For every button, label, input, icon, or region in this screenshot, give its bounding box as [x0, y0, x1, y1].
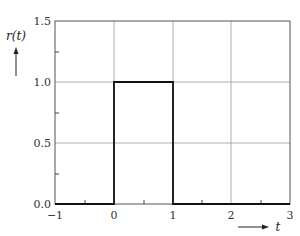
- minor-ticks: [55, 52, 261, 204]
- x-tick-0: 0: [111, 209, 118, 222]
- x-axis-arrow-icon: [238, 225, 269, 230]
- x-tick-3: 3: [287, 209, 294, 222]
- y-tick-0.5: 0.5: [34, 137, 52, 150]
- y-tick-1.5: 1.5: [34, 15, 52, 28]
- y-axis-label: r(t): [6, 29, 26, 43]
- y-axis-arrow-icon: [14, 47, 19, 76]
- x-tick-1: 1: [170, 209, 177, 222]
- x-axis-label: t: [276, 220, 281, 234]
- y-tick-1.0: 1.0: [34, 76, 52, 89]
- chart: 1.5 1.0 0.5 0.0 −1 0 1 2 3 r(t) t: [0, 0, 300, 236]
- x-tick-2: 2: [228, 209, 235, 222]
- x-tick-neg1: −1: [47, 209, 63, 222]
